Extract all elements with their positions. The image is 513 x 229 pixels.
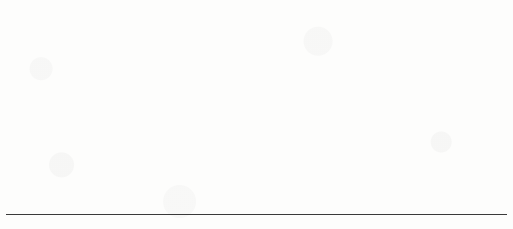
chart-plot-area	[0, 0, 513, 229]
chart-page	[0, 0, 513, 229]
footer-rule	[6, 214, 507, 215]
